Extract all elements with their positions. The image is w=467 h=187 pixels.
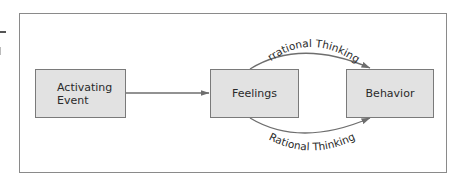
- node-label-feelings: Feelings: [232, 87, 277, 100]
- node-label-behavior: Behavior: [366, 87, 415, 100]
- margin-tick-mark: [0, 47, 1, 55]
- node-behavior: Behavior: [346, 69, 434, 118]
- diagram-canvas: Irrational Thinking Rational Thinking Ac…: [0, 0, 467, 187]
- node-feelings: Feelings: [210, 69, 299, 118]
- node-label-activating-event: Activating Event: [57, 81, 112, 107]
- node-activating-event: Activating Event: [35, 69, 126, 118]
- margin-dash-mark: [0, 31, 6, 33]
